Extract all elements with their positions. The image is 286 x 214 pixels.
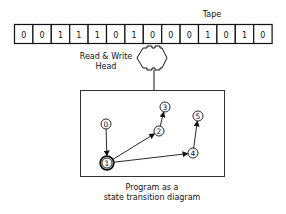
tape-cell: 0 (107, 25, 125, 44)
tape-cell: 0 (33, 25, 51, 44)
state-node-5: 5 (193, 111, 203, 121)
tape-cell-value: 0 (168, 31, 173, 40)
tape-cell: 1 (70, 25, 88, 44)
head-label-line2: Head (96, 62, 117, 71)
state-node-3: 3 (160, 102, 170, 112)
state-node-4: 4 (188, 148, 198, 158)
tape-cell-value: 0 (40, 31, 45, 40)
state-label: 1 (105, 159, 110, 168)
program-caption-line1: Program as a (126, 183, 179, 192)
tape: 00111010001010 (15, 25, 273, 44)
state-label: 5 (196, 112, 201, 121)
tape-cell-value: 1 (242, 31, 247, 40)
state-label: 0 (104, 120, 109, 129)
tape-cell-value: 1 (95, 31, 100, 40)
tape-cell: 1 (125, 25, 143, 44)
tape-cell-value: 0 (260, 31, 265, 40)
head-shape-icon (137, 46, 167, 70)
state-node-1: 1 (100, 156, 114, 170)
head-label-line1: Read & Write (80, 52, 133, 61)
tape-cell: 0 (217, 25, 235, 44)
state-label: 3 (163, 103, 168, 112)
tape-cell: 1 (199, 25, 217, 44)
tape-cell: 1 (88, 25, 106, 44)
tape-cell-value: 0 (187, 31, 192, 40)
program-caption-line2: state transition diagram (104, 193, 201, 202)
state-node-0: 0 (101, 119, 111, 129)
tape-cell: 0 (143, 25, 161, 44)
read-write-head: Read & Write Head (80, 46, 167, 90)
state-label: 4 (191, 149, 196, 158)
tape-cell: 1 (235, 25, 253, 44)
turing-machine-diagram: Tape 00111010001010 Read & Write Head 01… (0, 0, 286, 214)
tape-cell: 0 (162, 25, 180, 44)
tape-cell-value: 1 (205, 31, 210, 40)
state-node-2: 2 (154, 126, 164, 136)
state-label: 2 (157, 127, 162, 136)
tape-cell-value: 0 (21, 31, 26, 40)
tape-cell-value: 1 (76, 31, 81, 40)
tape-cell-value: 1 (132, 31, 137, 40)
tape-cell: 1 (51, 25, 69, 44)
tape-cell-value: 0 (224, 31, 229, 40)
tape-cell-value: 1 (58, 31, 63, 40)
tape-cell-value: 0 (150, 31, 155, 40)
tape-label: Tape (202, 10, 222, 19)
tape-cell: 0 (15, 25, 33, 44)
tape-cell: 0 (180, 25, 198, 44)
tape-cell-value: 0 (113, 31, 118, 40)
tape-cell: 0 (254, 25, 272, 44)
